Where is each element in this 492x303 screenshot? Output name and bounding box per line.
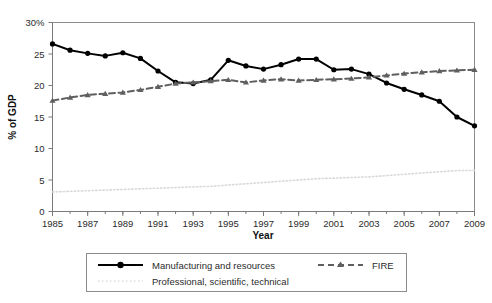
data-point-marker xyxy=(85,51,90,56)
line-chart: 051015202530% 19851987198919911993199519… xyxy=(0,0,492,303)
series-manufacturing-and-resources xyxy=(50,41,477,128)
series-fire xyxy=(49,67,477,103)
y-tick-label: 0 xyxy=(39,206,44,217)
chart-legend: Manufacturing and resources FIRE Profess… xyxy=(87,254,407,292)
y-tick-label: 5 xyxy=(39,175,44,186)
data-point-marker xyxy=(472,123,477,128)
series-line xyxy=(53,171,475,192)
x-tick-label: 1999 xyxy=(288,218,309,229)
x-tick-label: 1993 xyxy=(183,218,204,229)
plot-area-border xyxy=(53,23,475,212)
y-tick-label: 25 xyxy=(34,49,45,60)
x-tick-label: 2003 xyxy=(358,218,379,229)
data-series-group xyxy=(49,41,477,192)
circle-marker-icon xyxy=(117,262,123,268)
x-tick-label: 2005 xyxy=(394,218,415,229)
x-tick-label: 1995 xyxy=(218,218,239,229)
x-tick-label: 1997 xyxy=(253,218,274,229)
x-tick-label: 1987 xyxy=(77,218,98,229)
data-point-marker xyxy=(67,48,72,53)
legend-label-professional: Professional, scientific, technical xyxy=(152,276,289,287)
y-tick-label: 20 xyxy=(34,80,45,91)
data-point-marker xyxy=(349,67,354,72)
data-point-marker xyxy=(437,99,442,104)
x-axis-title: Year xyxy=(252,230,273,241)
x-tick-label: 2009 xyxy=(464,218,485,229)
series-line xyxy=(53,70,475,101)
series-professional-scientific-technical xyxy=(53,171,475,192)
data-point-marker xyxy=(278,62,283,67)
series-line xyxy=(53,44,475,126)
y-tick-label: 15 xyxy=(34,112,45,123)
y-tick-label: 10 xyxy=(34,143,45,154)
data-point-marker xyxy=(103,53,108,58)
legend-label-manufacturing: Manufacturing and resources xyxy=(152,260,275,271)
x-tick-label: 1989 xyxy=(112,218,133,229)
data-point-marker xyxy=(331,67,336,72)
chart-figure: 051015202530% 19851987198919911993199519… xyxy=(0,0,492,303)
x-tick-label: 2007 xyxy=(429,218,450,229)
data-point-marker xyxy=(243,63,248,68)
data-point-marker xyxy=(50,41,55,46)
data-point-marker xyxy=(138,56,143,61)
data-point-marker xyxy=(384,80,389,85)
data-point-marker xyxy=(419,92,424,97)
legend-label-fire: FIRE xyxy=(372,260,394,271)
x-axis: 1985198719891991199319951997199920012003… xyxy=(42,212,485,229)
data-point-marker xyxy=(314,56,319,61)
y-tick-label: 30% xyxy=(25,17,45,28)
data-point-marker xyxy=(402,87,407,92)
x-tick-label: 1991 xyxy=(147,218,168,229)
x-tick-label: 2001 xyxy=(323,218,344,229)
y-axis-title: % of GDP xyxy=(7,94,18,140)
data-point-marker xyxy=(261,67,266,72)
y-axis: 051015202530% xyxy=(25,17,52,217)
data-point-marker xyxy=(296,56,301,61)
x-tick-label: 1985 xyxy=(42,218,63,229)
data-point-marker xyxy=(226,58,231,63)
data-point-marker xyxy=(454,114,459,119)
data-point-marker xyxy=(120,50,125,55)
data-point-marker xyxy=(155,68,160,73)
